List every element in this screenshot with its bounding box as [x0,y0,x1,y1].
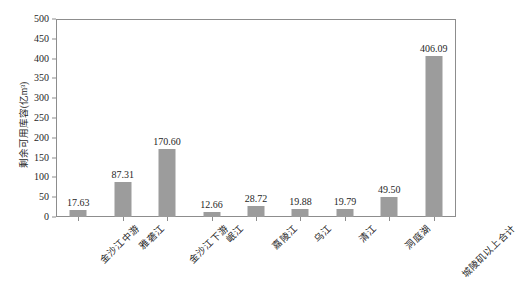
bar-value-label: 49.50 [378,184,401,195]
x-category-label: 金沙江中游 [99,223,142,266]
y-tick-label: 450 [34,34,49,44]
y-tick-label: 500 [34,14,49,24]
bar-value-label: 19.88 [289,196,312,207]
x-category-label: 清江 [357,223,379,245]
y-tick-label: 150 [34,153,49,163]
bar-value-label: 19.79 [334,196,357,207]
y-tick-label: 250 [34,113,49,123]
bar-group: 28.72 [234,19,278,217]
y-tick-label: 300 [34,93,49,103]
bar-group: 12.66 [189,19,233,217]
bar [70,210,87,217]
x-category-label: 城陵矶以上合计 [460,223,517,280]
x-category-label: 金沙江下游 [188,223,231,266]
y-tick-label: 50 [39,192,49,202]
bar [292,209,309,217]
y-tick-label: 400 [34,54,49,64]
x-category-label: 乌江 [312,223,334,245]
bar [159,149,176,217]
y-tick-label: 350 [34,73,49,83]
bar [336,209,353,217]
bar [114,182,131,217]
bar-group: 87.31 [100,19,144,217]
bar [381,197,398,217]
x-category-label: 洞庭湖 [404,223,433,252]
bar-value-label: 170.60 [153,136,181,147]
bar-value-label: 406.09 [420,43,448,54]
bar-group: 170.60 [145,19,189,217]
y-tick-label: 100 [34,172,49,182]
y-axis-ticks: 050100150200250300350400450500 [0,19,56,217]
x-category-label: 嘉陵江 [271,223,300,252]
bar-group: 17.63 [56,19,100,217]
bar-group: 19.88 [278,19,322,217]
bar-value-label: 12.66 [200,199,223,210]
bars-layer: 17.6387.31170.6012.6628.7219.8819.7949.5… [56,19,456,217]
bar-value-label: 28.72 [245,193,268,204]
bar-value-label: 87.31 [111,169,134,180]
y-tick-label: 200 [34,133,49,143]
bar [247,206,264,217]
y-tick-label: 0 [44,212,49,222]
bar-group: 406.09 [412,19,456,217]
bar-value-label: 17.63 [67,197,90,208]
x-axis-labels: 金沙江中游雅砻江金沙江下游岷江嘉陵江乌江清江洞庭湖城陵矶以上合计 [56,217,456,297]
x-category-label: 雅砻江 [137,223,166,252]
bar-group: 49.50 [367,19,411,217]
bar-group: 19.79 [323,19,367,217]
bar [425,56,442,217]
